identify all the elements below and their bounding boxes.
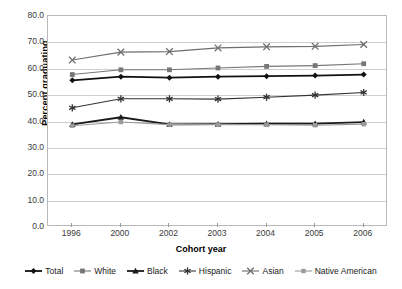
x-axis-tickmark (217, 223, 218, 227)
legend-item-hispanic[interactable]: Hispanic (179, 266, 232, 276)
x-axis-tick: 2003 (208, 228, 227, 238)
marker-square (216, 66, 221, 71)
marker-square-small (301, 269, 305, 273)
y-axis-tick: 50.0 (2, 90, 44, 99)
marker-diamond (264, 73, 270, 79)
x-axis-tickmark (168, 223, 169, 227)
marker-diamond (312, 73, 318, 79)
y-axis-tick: 30.0 (2, 143, 44, 152)
marker-diamond (166, 75, 172, 81)
graduation-rate-line-chart: Percent graduating 80.070.060.050.040.03… (0, 0, 402, 289)
legend-label: Total (45, 266, 63, 276)
series-asian (69, 41, 367, 63)
x-axis-tickmark (120, 223, 121, 227)
legend-item-black[interactable]: Black (127, 266, 168, 276)
legend-item-native-american[interactable]: Native American (295, 266, 377, 276)
legend-item-white[interactable]: White (74, 266, 116, 276)
x-axis-tickmark (314, 223, 315, 227)
x-axis-tick: 2002 (159, 228, 178, 238)
marker-square (264, 64, 269, 69)
diamond-legend-icon (25, 266, 42, 276)
y-axis-tick: 20.0 (2, 169, 44, 178)
marker-square (167, 67, 172, 72)
x-axis-tickmark (363, 223, 364, 227)
y-axis-tick: 10.0 (2, 195, 44, 204)
y-axis-tick: 40.0 (2, 116, 44, 125)
x-axis-tick-labels: 1996200020022003200420052006 (47, 228, 387, 242)
plot-area (47, 15, 387, 226)
marker-square-small (216, 122, 220, 126)
legend-label: Black (147, 266, 168, 276)
marker-square (80, 269, 85, 274)
star-legend-icon (179, 266, 196, 276)
legend-label: Asian (262, 266, 283, 276)
marker-diamond (215, 74, 221, 80)
marker-square (313, 63, 318, 68)
x-axis-tick: 1996 (62, 228, 81, 238)
legend-label: Native American (315, 266, 377, 276)
marker-square (70, 72, 75, 77)
x-axis-tick: 2005 (305, 228, 324, 238)
series-layer (48, 16, 388, 227)
marker-diamond (361, 72, 367, 78)
x-axis-tickmark (266, 223, 267, 227)
marker-square-small (167, 122, 171, 126)
cross-legend-icon (242, 266, 259, 276)
x-axis-tick: 2006 (353, 228, 372, 238)
legend-item-total[interactable]: Total (25, 266, 63, 276)
x-axis-title: Cohort year (0, 244, 402, 254)
series-total (69, 72, 366, 84)
y-axis-tick: 70.0 (2, 37, 44, 46)
marker-square (361, 61, 366, 66)
y-axis-tick: 60.0 (2, 64, 44, 73)
x-axis-tick: 2004 (256, 228, 275, 238)
marker-square-small (264, 122, 268, 126)
series-hispanic (69, 89, 367, 111)
square-small-legend-icon (295, 266, 312, 276)
marker-square-small (119, 120, 123, 124)
y-axis-tick: 0.0 (2, 222, 44, 231)
chart-legend: TotalWhiteBlackHispanicAsianNative Ameri… (0, 266, 402, 276)
triangle-legend-icon (127, 266, 144, 276)
square-legend-icon (74, 266, 91, 276)
y-axis-tick: 80.0 (2, 11, 44, 20)
marker-square-small (313, 123, 317, 127)
marker-square-small (362, 122, 366, 126)
marker-square-small (70, 124, 74, 128)
legend-label: Hispanic (199, 266, 232, 276)
x-axis-tick: 2000 (110, 228, 129, 238)
x-axis-tickmark (71, 223, 72, 227)
legend-label: White (94, 266, 116, 276)
marker-diamond (118, 74, 124, 80)
marker-diamond (69, 77, 75, 83)
marker-square (118, 67, 123, 72)
marker-diamond (31, 268, 37, 274)
legend-item-asian[interactable]: Asian (242, 266, 283, 276)
